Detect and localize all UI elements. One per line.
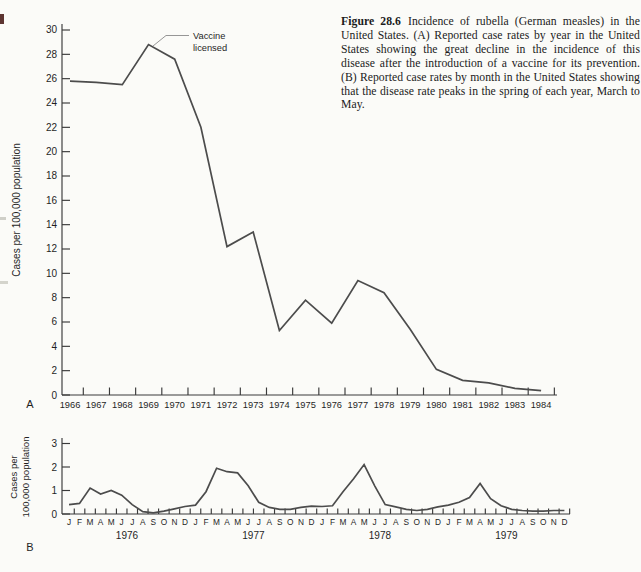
chart-b-y-tick-label: 2 [51,462,57,473]
figure-caption: Figure 28.6Incidence of rubella (German … [341,15,640,112]
chart-b: 0123JFMAMJJASONDJFMAMJJASONDJFMAMJJASOND… [8,437,570,553]
chart-b-year-label: 1977 [242,530,265,541]
chart-b-month-label: A [477,517,483,527]
chart-b-month-label: S [530,517,536,527]
chart-b-month-label: M [108,517,115,527]
chart-b-month-label: O [540,517,547,527]
panel-b-label: B [26,541,33,553]
chart-b-month-label: A [266,517,272,527]
chart-a-x-tick-label: 1977 [348,400,369,410]
chart-a-x-tick-label: 1966 [60,400,81,410]
chart-b-month-label: D [182,517,188,527]
chart-a-x-tick-label: 1969 [138,400,159,410]
chart-b-month-label: J [246,517,250,527]
chart-a-x-tick-label: 1973 [243,400,264,410]
chart-b-month-label: O [287,517,294,527]
chart-a-x-tick-label: 1984 [531,400,552,410]
chart-a-y-tick-label: 22 [46,122,58,133]
chart-b-month-label: J [446,517,450,527]
chart-b-month-label: J [67,517,71,527]
chart-b-y-axis-title-line2: 100,000 population [20,437,31,518]
chart-b-month-label: J [130,517,134,527]
figure-caption-text: Incidence of rubella (German measles) in… [341,15,640,111]
chart-a-x-tick-label: 1980 [426,400,447,410]
chart-a-y-tick-label: 2 [51,365,57,376]
chart-a-y-tick-label: 16 [46,195,58,206]
chart-a-y-tick-label: 30 [46,24,58,35]
chart-b-month-label: J [510,517,514,527]
chart-a-y-tick-label: 10 [46,268,58,279]
chart-a-y-tick-label: 0 [51,390,57,401]
chart-b-month-label: J [499,517,503,527]
chart-a-y-tick-label: 8 [51,292,57,303]
chart-a-y-tick-label: 26 [46,73,58,84]
chart-a-x-tick-label: 1972 [217,400,238,410]
chart-a-y-tick-label: 28 [46,49,58,60]
chart-b-month-label: S [151,517,157,527]
chart-a-x-tick-label: 1983 [505,400,526,410]
figure-caption-label: Figure 28.6 [341,15,408,28]
chart-b-month-label: A [98,517,104,527]
chart-b-y-tick-label: 3 [51,438,57,449]
chart-b-month-label: M [466,517,473,527]
chart-a-x-tick-label: 1967 [86,400,107,410]
chart-b-month-label: F [203,517,208,527]
chart-a-y-tick-label: 4 [51,341,57,352]
chart-a-y-tick-label: 12 [46,243,58,254]
chart-b-y-axis-title-line1: Cases per [8,455,19,498]
chart-b-month-label: N [171,517,177,527]
vaccine-callout-line [153,36,189,47]
chart-b-month-label: M [234,517,241,527]
chart-b-year-label: 1976 [116,530,139,541]
chart-b-month-label: J [193,517,197,527]
chart-b-month-label: F [456,517,461,527]
panel-a-label: A [26,398,34,410]
chart-a-y-tick-label: 14 [46,219,58,230]
chart-a-x-tick-label: 1982 [478,400,499,410]
chart-a-x-tick-label: 1976 [321,400,342,410]
chart-b-month-label: N [424,517,430,527]
chart-b-data-line [69,465,564,513]
chart-b-month-label: F [77,517,82,527]
chart-a-x-tick-label: 1968 [112,400,133,410]
chart-a-x-tick-label: 1974 [269,400,290,410]
chart-b-month-label: A [140,517,146,527]
chart-a-y-tick-label: 24 [46,97,58,108]
chart-b-y-tick-label: 0 [51,509,57,520]
chart-b-month-label: J [373,517,377,527]
chart-b-month-label: J [120,517,124,527]
chart-a-y-axis-title: Cases per 100,000 population [11,143,22,276]
chart-b-month-label: S [277,517,283,527]
chart-b-month-label: S [404,517,410,527]
chart-b-month-label: J [320,517,324,527]
scanned-figure-page: 0246810121416182022242628301966196719681… [0,0,641,572]
chart-a-x-tick-label: 1981 [452,400,473,410]
chart-a-y-tick-label: 20 [46,146,58,157]
chart-b-month-label: A [519,517,525,527]
chart-b-month-label: J [383,517,387,527]
chart-b-month-label: A [224,517,230,527]
chart-a-x-tick-label: 1971 [191,400,212,410]
chart-b-year-label: 1978 [369,530,392,541]
chart-b-month-label: J [257,517,261,527]
chart-a-y-tick-label: 18 [46,170,58,181]
chart-b-month-label: F [330,517,335,527]
chart-b-month-label: D [435,517,441,527]
chart-b-month-label: M [340,517,347,527]
chart-a-x-tick-label: 1970 [164,400,185,410]
chart-b-month-label: M [87,517,94,527]
chart-a-x-tick-label: 1979 [400,400,421,410]
chart-b-month-label: D [308,517,314,527]
chart-b-month-label: M [361,517,368,527]
chart-b-month-label: O [161,517,168,527]
chart-a-x-tick-label: 1975 [295,400,316,410]
chart-b-month-label: M [487,517,494,527]
chart-b-month-label: M [213,517,220,527]
chart-b-month-label: A [351,517,357,527]
chart-b-month-label: O [414,517,421,527]
vaccine-licensed-annotation: Vaccine [193,31,225,41]
chart-b-month-label: A [393,517,399,527]
chart-b-year-label: 1979 [495,530,518,541]
chart-b-month-label: N [298,517,304,527]
chart-b-month-label: D [561,517,567,527]
